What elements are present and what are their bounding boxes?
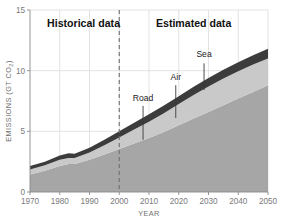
- series-label-air: Air: [171, 72, 182, 82]
- x-tick-label: 2010: [140, 197, 159, 206]
- x-tick-label: 1970: [21, 197, 40, 206]
- y-tick-label: 0: [20, 188, 25, 197]
- x-tick-label: 2040: [229, 197, 248, 206]
- region-label-historical: Historical data: [47, 17, 120, 29]
- y-axis-title-main: EMISSIONS (GT CO: [4, 67, 13, 142]
- x-tick-label: 2050: [259, 197, 278, 206]
- x-tick-label: 2000: [110, 197, 129, 206]
- x-axis-title: YEAR: [138, 209, 160, 218]
- series-label-sea: Sea: [196, 49, 212, 59]
- region-label-estimated: Estimated data: [156, 17, 231, 29]
- x-tick-label: 2020: [170, 197, 189, 206]
- series-label-road: Road: [133, 93, 154, 103]
- emissions-area-chart: 051015 197019801990200020102020203020402…: [0, 0, 283, 222]
- x-tick-label: 1990: [80, 197, 99, 206]
- x-tick-label: 2030: [199, 197, 218, 206]
- y-tick-label: 15: [16, 6, 26, 15]
- chart-canvas: 051015 197019801990200020102020203020402…: [0, 0, 283, 222]
- y-tick-label: 10: [16, 67, 26, 76]
- y-axis-title: EMISSIONS (GT CO2): [4, 60, 14, 142]
- y-axis-ticks: 051015: [16, 6, 30, 197]
- y-axis-title-tail: ): [4, 60, 13, 63]
- y-tick-label: 5: [20, 127, 25, 136]
- x-axis-ticks: 197019801990200020102020203020402050: [21, 192, 278, 206]
- x-tick-label: 1980: [51, 197, 70, 206]
